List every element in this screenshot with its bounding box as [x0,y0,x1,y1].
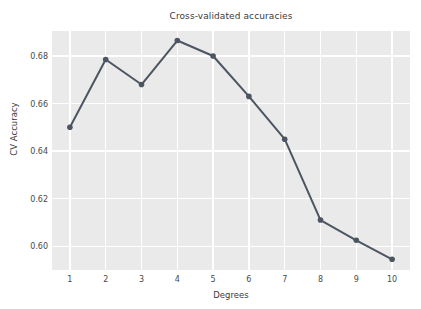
data-point-marker [389,257,395,263]
x-tick-label: 5 [198,275,228,284]
x-tick-label: 2 [91,275,121,284]
data-series-line [52,31,410,270]
y-tick-label: 0.64 [4,147,48,156]
plot-area [52,31,410,270]
data-point-marker [282,136,288,142]
data-point-marker [246,94,252,100]
x-tick-label: 8 [306,275,336,284]
chart-title: Cross-validated accuracies [52,11,410,21]
x-tick-label: 4 [162,275,192,284]
data-point-marker [318,217,324,223]
x-tick-label: 10 [377,275,407,284]
x-tick-label: 7 [270,275,300,284]
data-point-marker [175,38,181,44]
y-axis-ticks: 0.600.620.640.660.68 [0,31,48,270]
data-point-marker [67,125,73,131]
x-axis-ticks: 12345678910 [52,275,410,289]
x-tick-label: 6 [234,275,264,284]
data-point-marker [139,82,145,88]
y-tick-label: 0.66 [4,99,48,108]
x-tick-label: 3 [127,275,157,284]
data-point-marker [354,237,360,243]
y-tick-label: 0.62 [4,194,48,203]
x-tick-label: 1 [55,275,85,284]
x-tick-label: 9 [341,275,371,284]
x-axis-label: Degrees [52,290,410,300]
data-point-marker [210,53,216,59]
data-point-marker [103,57,109,63]
y-tick-label: 0.68 [4,51,48,60]
chart-figure: Cross-validated accuracies CV Accuracy 0… [0,0,421,309]
series-polyline [70,41,392,260]
y-tick-label: 0.60 [4,242,48,251]
